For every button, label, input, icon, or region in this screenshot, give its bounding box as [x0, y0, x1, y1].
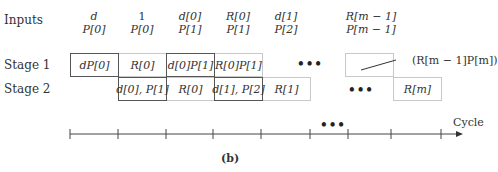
stage2-cell: d[0], P[1]	[118, 77, 167, 101]
annotation-leader-line	[360, 58, 400, 72]
stage1-cell: d[0]P[1]	[166, 53, 215, 77]
input-top: d[1]	[256, 10, 316, 23]
input-column-5: d[1] P[2]	[256, 10, 316, 36]
annotation-label: (R[m − 1]P[m])	[412, 54, 498, 67]
input-column-m: R[m − 1] P[m − 1]	[326, 10, 416, 36]
stage1-cell: R[0]	[118, 53, 167, 77]
stage2-ellipsis: •••	[348, 83, 374, 97]
stage1-cell: R[0]P[1]	[214, 53, 263, 77]
input-top: R[m − 1]	[326, 10, 416, 23]
axis-arrow-icon	[456, 131, 463, 137]
axis-ellipsis: •••	[320, 118, 346, 132]
input-bottom: P[2]	[256, 23, 316, 36]
stage2-cell: R[m]	[393, 77, 442, 101]
stage2-row-label: Stage 2	[4, 82, 50, 96]
cycle-axis	[0, 120, 498, 146]
stage1-ellipsis: •••	[297, 57, 323, 71]
stage2-cell: R[1]	[262, 77, 311, 101]
inputs-row-label: Inputs	[4, 13, 43, 27]
axis-label: Cycle	[453, 116, 484, 129]
stage1-row-label: Stage 1	[4, 58, 50, 72]
stage2-cell: R[0]	[166, 77, 215, 101]
figure-caption: (b)	[221, 152, 239, 165]
input-bottom: P[m − 1]	[326, 23, 416, 36]
stage1-cell: dP[0]	[70, 53, 119, 77]
stage2-cell: d[1], P[2]	[214, 77, 263, 101]
